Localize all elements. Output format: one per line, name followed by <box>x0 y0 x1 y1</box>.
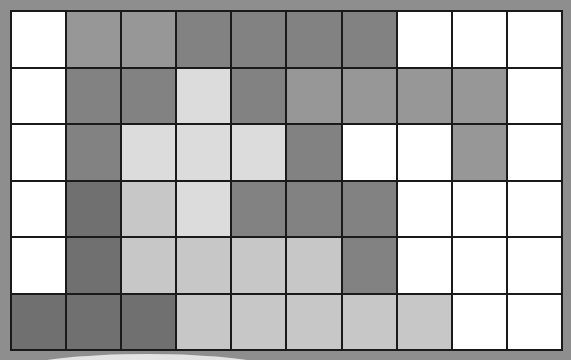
board-cell[interactable] <box>232 125 285 180</box>
board-cell[interactable] <box>67 295 120 350</box>
board-cell[interactable] <box>343 238 396 293</box>
board-cell[interactable] <box>453 238 506 293</box>
board-cell[interactable] <box>453 125 506 180</box>
board-cell[interactable] <box>343 295 396 350</box>
board-cell[interactable] <box>67 12 120 67</box>
board-cell[interactable] <box>232 182 285 237</box>
board-cell[interactable] <box>398 238 451 293</box>
board-cell[interactable] <box>177 238 230 293</box>
board-cell[interactable] <box>232 69 285 124</box>
board-cell[interactable] <box>232 12 285 67</box>
board-cell[interactable] <box>287 295 340 350</box>
board-cell[interactable] <box>398 125 451 180</box>
board-cell[interactable] <box>343 12 396 67</box>
board-cell[interactable] <box>177 182 230 237</box>
board-cell[interactable] <box>122 12 175 67</box>
board-cell[interactable] <box>343 69 396 124</box>
board-cell[interactable] <box>67 182 120 237</box>
board-cell[interactable] <box>122 182 175 237</box>
board-cell[interactable] <box>453 182 506 237</box>
board-cell[interactable] <box>122 69 175 124</box>
board-cell[interactable] <box>12 295 65 350</box>
board-cell[interactable] <box>287 12 340 67</box>
board-cell[interactable] <box>508 238 561 293</box>
board-cell[interactable] <box>287 238 340 293</box>
board-cell[interactable] <box>67 69 120 124</box>
board-cell[interactable] <box>12 12 65 67</box>
board-cell[interactable] <box>287 125 340 180</box>
board-cell[interactable] <box>67 125 120 180</box>
board-cell[interactable] <box>177 295 230 350</box>
board-cell[interactable] <box>177 69 230 124</box>
board-cell[interactable] <box>232 295 285 350</box>
board-cell[interactable] <box>287 69 340 124</box>
board-cell[interactable] <box>343 125 396 180</box>
board-cell[interactable] <box>508 69 561 124</box>
board-cell[interactable] <box>398 12 451 67</box>
board-cell[interactable] <box>453 69 506 124</box>
board-cell[interactable] <box>12 69 65 124</box>
game-board <box>10 10 563 351</box>
board-cell[interactable] <box>177 125 230 180</box>
light-reflection <box>22 354 272 360</box>
board-cell[interactable] <box>508 182 561 237</box>
board-cell[interactable] <box>12 125 65 180</box>
board-cell[interactable] <box>122 125 175 180</box>
board-cell[interactable] <box>177 12 230 67</box>
board-cell[interactable] <box>67 238 120 293</box>
board-cell[interactable] <box>398 295 451 350</box>
board-cell[interactable] <box>12 182 65 237</box>
board-cell[interactable] <box>508 295 561 350</box>
board-cell[interactable] <box>453 12 506 67</box>
board-cell[interactable] <box>398 69 451 124</box>
board-cell[interactable] <box>122 238 175 293</box>
game-stage <box>0 0 571 360</box>
board-cell[interactable] <box>508 12 561 67</box>
board-cell[interactable] <box>12 238 65 293</box>
board-cell[interactable] <box>122 295 175 350</box>
board-cell[interactable] <box>453 295 506 350</box>
board-cell[interactable] <box>343 182 396 237</box>
board-cell[interactable] <box>287 182 340 237</box>
board-cell[interactable] <box>398 182 451 237</box>
board-cell[interactable] <box>232 238 285 293</box>
board-cell[interactable] <box>508 125 561 180</box>
